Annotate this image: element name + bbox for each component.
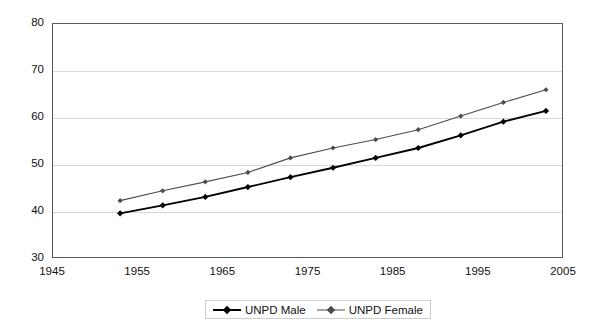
data-point-1998 <box>501 100 506 105</box>
data-point-2003 <box>543 87 548 92</box>
legend-swatch-icon <box>213 305 241 315</box>
series-line <box>120 90 546 201</box>
data-point-1968 <box>245 170 250 175</box>
legend-item-unpd-female[interactable]: UNPD Female <box>317 304 423 316</box>
data-point-1973 <box>287 174 293 180</box>
data-point-1988 <box>416 127 421 132</box>
data-point-1993 <box>458 113 463 118</box>
legend-swatch-icon <box>317 305 345 315</box>
data-point-1968 <box>245 184 251 190</box>
data-point-1958 <box>160 202 166 208</box>
line-chart: 304050607080 194519551965197519851995200… <box>0 0 610 329</box>
data-point-1953 <box>118 198 123 203</box>
data-point-1998 <box>500 119 506 125</box>
data-point-1988 <box>415 145 421 151</box>
legend-diamond-icon <box>223 305 231 313</box>
data-point-2003 <box>543 108 549 114</box>
data-point-1983 <box>373 137 378 142</box>
data-point-1963 <box>202 194 208 200</box>
series-unpd-male <box>117 108 549 217</box>
data-point-1973 <box>288 155 293 160</box>
chart-legend: UNPD MaleUNPD Female <box>205 300 431 319</box>
legend-diamond-icon <box>326 305 334 313</box>
data-point-1993 <box>458 132 464 138</box>
data-point-1953 <box>117 210 123 216</box>
series-unpd-female <box>118 87 549 203</box>
data-point-1978 <box>330 145 335 150</box>
legend-label: UNPD Male <box>245 304 306 316</box>
data-series-layer <box>0 0 610 329</box>
legend-item-unpd-male[interactable]: UNPD Male <box>213 304 306 316</box>
data-point-1958 <box>160 188 165 193</box>
data-point-1978 <box>330 165 336 171</box>
series-line <box>120 111 546 213</box>
legend-label: UNPD Female <box>349 304 423 316</box>
data-point-1983 <box>373 155 379 161</box>
data-point-1963 <box>203 179 208 184</box>
